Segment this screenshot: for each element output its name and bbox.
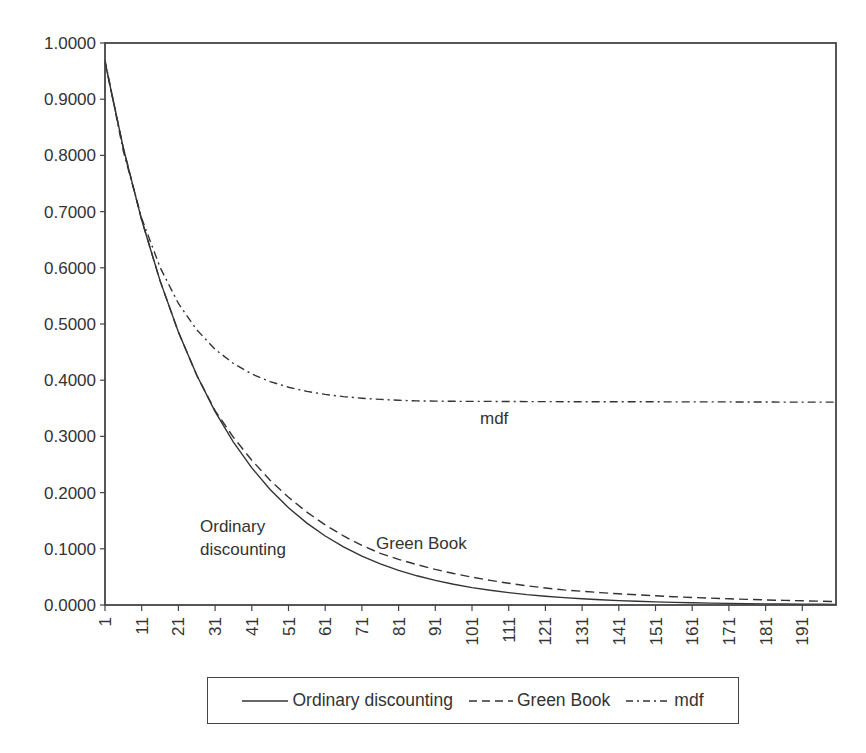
y-tick-label: 0.2000 <box>44 484 96 503</box>
solid-line-icon <box>242 696 288 706</box>
x-tick-label: 121 <box>536 617 555 645</box>
x-tick-label: 31 <box>206 617 225 636</box>
discount-factor-chart: 0.00000.10000.20000.30000.40000.50000.60… <box>0 0 866 753</box>
legend-label: mdf <box>674 690 703 711</box>
x-tick-label: 21 <box>169 617 188 636</box>
y-tick-label: 0.5000 <box>44 315 96 334</box>
y-tick-label: 0.7000 <box>44 203 96 222</box>
x-tick-label: 191 <box>793 617 812 645</box>
legend-item-ordinary: Ordinary discounting <box>242 690 453 711</box>
x-tick-label: 11 <box>133 617 152 635</box>
x-tick-label: 171 <box>720 617 739 645</box>
x-tick-label: 41 <box>243 617 262 636</box>
x-axis: 1112131415161718191101111121131141151161… <box>96 605 812 645</box>
x-tick-label: 1 <box>96 617 115 626</box>
legend-label: Green Book <box>517 690 610 711</box>
legend-item-green-book: Green Book <box>467 690 610 711</box>
x-tick-label: 181 <box>757 617 776 645</box>
y-tick-label: 0.6000 <box>44 259 96 278</box>
y-tick-label: 0.8000 <box>44 146 96 165</box>
series-mdf <box>105 60 835 402</box>
x-tick-label: 61 <box>316 617 335 636</box>
x-tick-label: 81 <box>390 617 409 636</box>
x-tick-label: 131 <box>573 617 592 645</box>
x-tick-label: 151 <box>647 617 666 645</box>
legend-item-mdf: mdf <box>624 690 703 711</box>
annotation-green-book: Green Book <box>376 534 467 553</box>
dash-dot-line-icon <box>624 696 670 706</box>
y-tick-label: 0.3000 <box>44 427 96 446</box>
x-tick-label: 111 <box>500 617 519 643</box>
x-tick-label: 91 <box>426 617 445 636</box>
annotation-ordinary: Ordinary <box>200 517 266 536</box>
y-axis: 0.00000.10000.20000.30000.40000.50000.60… <box>44 34 105 615</box>
y-tick-label: 1.0000 <box>44 34 96 53</box>
annotation-discounting: discounting <box>200 540 286 559</box>
x-tick-label: 51 <box>280 617 299 636</box>
dashed-line-icon <box>467 696 513 706</box>
x-tick-label: 161 <box>683 617 702 645</box>
y-tick-label: 0.4000 <box>44 371 96 390</box>
y-tick-label: 0.9000 <box>44 90 96 109</box>
x-tick-label: 71 <box>353 617 372 636</box>
y-tick-label: 0.1000 <box>44 540 96 559</box>
legend-label: Ordinary discounting <box>292 690 453 711</box>
annotation-mdf: mdf <box>480 409 509 428</box>
chart-legend: Ordinary discounting Green Book mdf <box>207 677 739 724</box>
y-tick-label: 0.0000 <box>44 596 96 615</box>
x-tick-label: 141 <box>610 617 629 645</box>
x-tick-label: 101 <box>463 617 482 645</box>
